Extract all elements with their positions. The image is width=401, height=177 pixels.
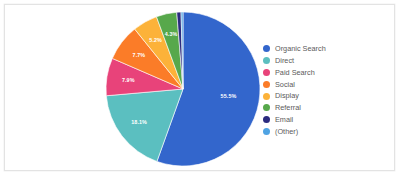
chart-card: 55.5%18.1%7.9%7.7%5.2%4.3% Organic Searc…	[4, 4, 395, 171]
legend-swatch-icon	[263, 128, 270, 135]
legend-item-label: Email	[275, 116, 293, 123]
legend-item-label: Organic Search	[275, 45, 326, 52]
pie-slice-group	[106, 12, 260, 166]
legend-item[interactable]: Social	[263, 78, 393, 90]
legend-swatch-icon	[263, 57, 270, 64]
pie-slice-value-label: 18.1%	[131, 119, 147, 125]
legend-item-label: Direct	[275, 57, 294, 64]
pie-chart-svg: 55.5%18.1%7.9%7.7%5.2%4.3%	[5, 5, 265, 170]
pie-slice-value-label: 5.2%	[149, 37, 162, 43]
legend-item-label: Paid Search	[275, 69, 315, 76]
chart-legend: Organic SearchDirectPaid SearchSocialDis…	[263, 43, 393, 137]
pie-slice-value-label: 7.9%	[122, 77, 135, 83]
legend-swatch-icon	[263, 81, 270, 88]
legend-swatch-icon	[263, 45, 270, 52]
pie-chart-plot-area: 55.5%18.1%7.9%7.7%5.2%4.3%	[5, 5, 265, 170]
legend-item[interactable]: Referral	[263, 102, 393, 114]
legend-item[interactable]: Display	[263, 90, 393, 102]
pie-slice-value-label: 4.3%	[165, 31, 178, 37]
legend-swatch-icon	[263, 116, 270, 123]
legend-item[interactable]: (Other)	[263, 126, 393, 138]
legend-item[interactable]: Paid Search	[263, 67, 393, 79]
legend-item[interactable]: Email	[263, 114, 393, 126]
legend-swatch-icon	[263, 93, 270, 100]
pie-slice-value-label: 7.7%	[133, 52, 146, 58]
legend-item-label: Referral	[275, 104, 301, 111]
legend-item[interactable]: Direct	[263, 55, 393, 67]
legend-swatch-icon	[263, 69, 270, 76]
legend-item-label: Social	[275, 81, 295, 88]
legend-item-label: (Other)	[275, 128, 298, 135]
legend-swatch-icon	[263, 104, 270, 111]
legend-item[interactable]: Organic Search	[263, 43, 393, 55]
pie-slice-value-label: 55.5%	[221, 93, 237, 99]
legend-item-label: Display	[275, 92, 299, 99]
